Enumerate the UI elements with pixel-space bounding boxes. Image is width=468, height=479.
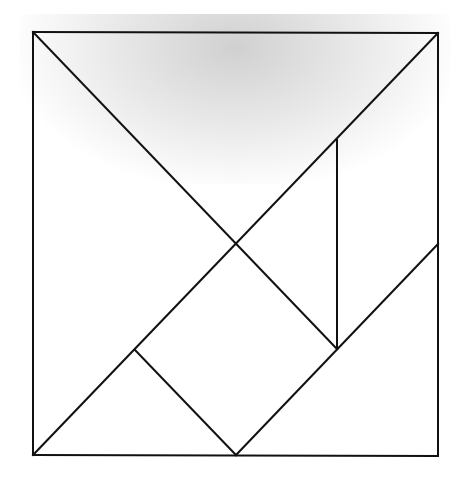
small-triangle-edge-line [135,350,236,455]
tangram-diagram [0,0,468,479]
top-edge-line [33,32,438,33]
diagonal-top-left-line [33,32,337,349]
